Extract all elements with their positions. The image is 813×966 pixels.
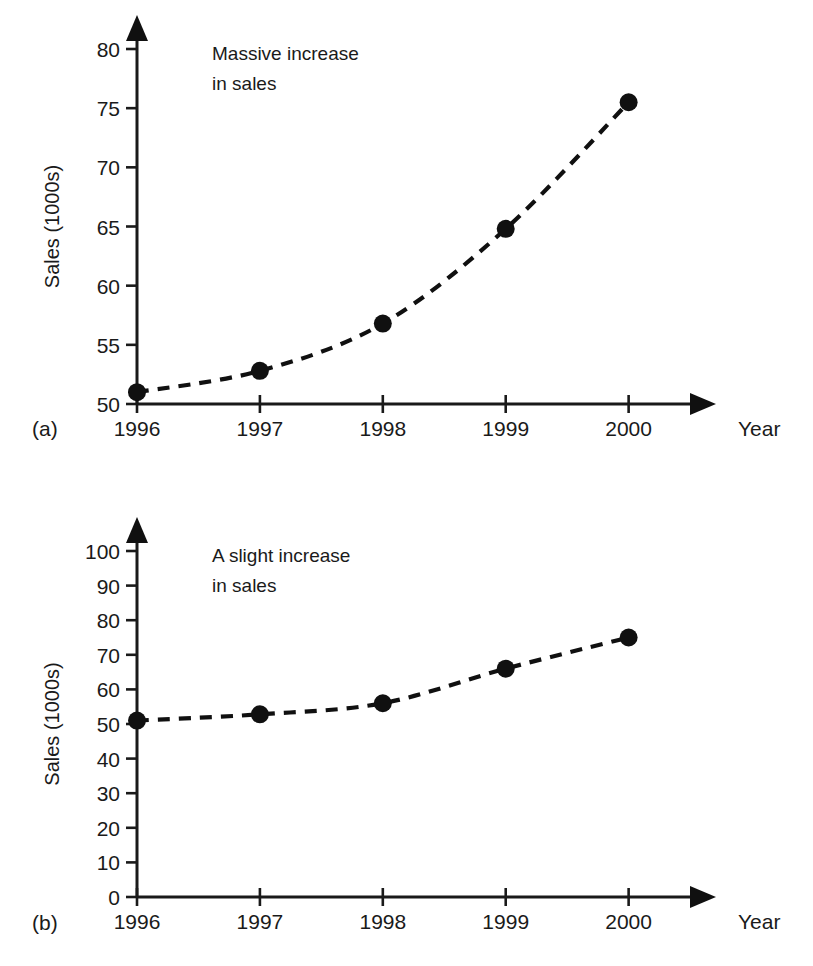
- data-point-marker: [620, 629, 638, 647]
- x-tick-label: 2000: [605, 910, 652, 933]
- chart-annotation-line: A slight increase: [212, 545, 350, 566]
- y-tick-label: 70: [97, 156, 120, 179]
- chart-annotation-line: Massive increase: [212, 43, 359, 64]
- data-point-marker: [374, 694, 392, 712]
- x-axis-arrow: [690, 886, 716, 908]
- y-tick-label: 65: [97, 216, 120, 239]
- y-tick-label: 50: [97, 393, 120, 416]
- y-tick-label: 75: [97, 97, 120, 120]
- y-tick-label: 80: [97, 609, 120, 632]
- chart-annotation-line: in sales: [212, 73, 276, 94]
- x-axis-title: Year: [738, 910, 780, 933]
- chart-b-canvas: 0102030405060708090100199619971998199920…: [0, 490, 813, 966]
- y-tick-label: 90: [97, 575, 120, 598]
- x-tick-label: 1998: [359, 910, 406, 933]
- chart-b: 0102030405060708090100199619971998199920…: [0, 490, 813, 966]
- data-point-marker: [620, 93, 638, 111]
- x-tick-label: 1996: [114, 910, 161, 933]
- x-tick-label: 1999: [482, 910, 529, 933]
- figure-page: 5055606570758019961997199819992000YearSa…: [0, 0, 813, 966]
- y-tick-label: 50: [97, 713, 120, 736]
- data-point-marker: [128, 383, 146, 401]
- y-tick-label: 60: [97, 678, 120, 701]
- chart-a: 5055606570758019961997199819992000YearSa…: [0, 0, 813, 470]
- subfigure-label: (b): [32, 911, 58, 934]
- y-axis-title: Sales (1000s): [41, 662, 63, 785]
- x-axis-title: Year: [738, 417, 780, 440]
- y-tick-label: 55: [97, 334, 120, 357]
- y-tick-label: 0: [108, 886, 120, 909]
- x-tick-label: 1999: [482, 417, 529, 440]
- data-point-marker: [497, 220, 515, 238]
- data-point-marker: [251, 705, 269, 723]
- x-tick-label: 1997: [237, 910, 284, 933]
- data-point-marker: [374, 315, 392, 333]
- x-tick-label: 1996: [114, 417, 161, 440]
- series-line-sales: [137, 102, 629, 392]
- y-axis-arrow: [126, 15, 148, 41]
- y-tick-label: 30: [97, 782, 120, 805]
- y-tick-label: 80: [97, 38, 120, 61]
- y-axis-arrow: [126, 517, 148, 543]
- x-tick-label: 2000: [605, 417, 652, 440]
- y-axis-title: Sales (1000s): [41, 165, 63, 288]
- y-tick-label: 70: [97, 644, 120, 667]
- y-tick-label: 100: [85, 540, 120, 563]
- chart-a-canvas: 5055606570758019961997199819992000YearSa…: [0, 0, 813, 470]
- y-tick-label: 40: [97, 748, 120, 771]
- y-tick-label: 10: [97, 851, 120, 874]
- x-axis-arrow: [690, 393, 716, 415]
- data-point-marker: [128, 712, 146, 730]
- x-tick-label: 1997: [237, 417, 284, 440]
- y-tick-label: 60: [97, 275, 120, 298]
- chart-annotation-line: in sales: [212, 575, 276, 596]
- data-point-marker: [497, 660, 515, 678]
- data-point-marker: [251, 362, 269, 380]
- x-tick-label: 1998: [359, 417, 406, 440]
- subfigure-label: (a): [32, 417, 58, 440]
- y-tick-label: 20: [97, 817, 120, 840]
